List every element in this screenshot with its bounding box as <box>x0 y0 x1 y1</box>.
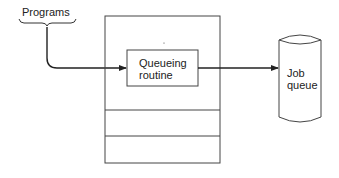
queueing-routine-label-line1: Queueing <box>139 57 187 69</box>
dot-mark <box>163 42 164 43</box>
queueing-diagram: Programs Queueing routine Job queue <box>0 0 339 178</box>
programs-to-queue-arrow <box>47 27 126 68</box>
queueing-routine-label-line2: routine <box>139 69 173 81</box>
programs-source: Programs <box>19 6 76 26</box>
system-box <box>105 16 220 163</box>
job-queue-cylinder: Job queue <box>279 35 321 122</box>
programs-label: Programs <box>22 6 70 18</box>
job-queue-label-line1: Job <box>287 67 305 79</box>
queueing-routine-box: Queueing routine <box>127 50 198 86</box>
job-queue-label-line2: queue <box>287 79 318 91</box>
brace-icon <box>19 19 76 26</box>
